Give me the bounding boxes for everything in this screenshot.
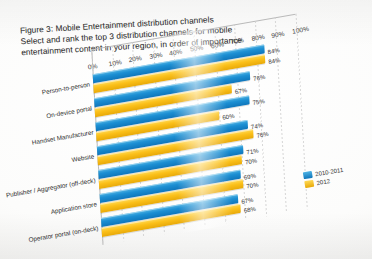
plot-area: 84%84%76%67%75%60%74%76%71%70%69%70%67%6… <box>92 59 307 239</box>
category-label-3: Website <box>71 152 94 163</box>
legend-swatch-yellow-icon <box>304 180 314 188</box>
plot-surface <box>92 36 306 239</box>
legend-label-2012: 2012 <box>316 178 330 186</box>
figure-container: Figure 3: Mobile Entertainment distribut… <box>0 0 372 259</box>
y-axis-category-labels: Person-to-personOn-device portalHandset … <box>0 71 102 244</box>
category-label-0: Person-to-person <box>42 80 91 95</box>
value-label-0-yellow: 84% <box>268 56 281 65</box>
value-label-6-yellow: 68% <box>243 205 256 214</box>
category-label-6: Operator portal (on-deck) <box>28 224 99 243</box>
chart-legend: 2010-2011 2012 <box>303 165 346 189</box>
category-label-4: Publisher / Aggregator (off-deck) <box>6 176 96 198</box>
category-label-2: Handset Manufacturer <box>31 128 94 145</box>
value-label-1-yellow: 67% <box>234 86 247 95</box>
category-label-1: On-device portal <box>45 104 92 119</box>
category-label-5: Application store <box>51 200 98 215</box>
